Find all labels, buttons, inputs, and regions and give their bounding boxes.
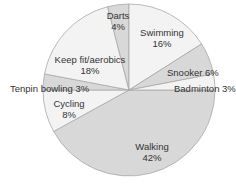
- label-tenpin-bowling: Tenpin bowling 3%: [10, 83, 90, 94]
- label-cycling-name: Cycling: [53, 98, 84, 109]
- label-cycling-pct: 8%: [62, 109, 76, 120]
- label-swimming-pct: 16%: [152, 38, 172, 49]
- label-snooker: Snooker 6%: [167, 67, 219, 78]
- label-badminton: Badminton 3%: [174, 83, 236, 94]
- label-keep-fit-name: Keep fit/aerobics: [55, 54, 126, 65]
- label-darts-name: Darts: [107, 10, 130, 21]
- pie-chart: Walking 42% Cycling 8% Tenpin bowling 3%…: [0, 0, 236, 184]
- label-darts-pct: 4%: [111, 21, 125, 32]
- label-swimming-name: Swimming: [140, 27, 184, 38]
- label-keep-fit-pct: 18%: [80, 65, 100, 76]
- label-walking-name: Walking: [135, 141, 168, 152]
- label-walking-pct: 42%: [142, 152, 162, 163]
